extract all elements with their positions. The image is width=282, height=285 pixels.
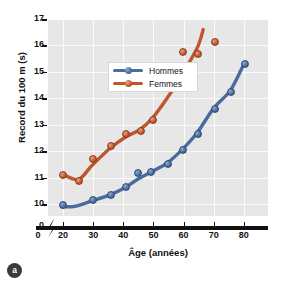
data-point-femmes [179,48,187,56]
y-tick-mark [42,151,47,153]
data-point-hommes [59,201,67,209]
legend-item-hommes: Hommes [113,64,193,77]
data-point-femmes [59,171,67,179]
x-tick-label: 40 [112,231,134,240]
data-point-hommes [122,183,130,191]
y-tick-label: 11 [22,173,44,182]
data-point-hommes [194,130,202,138]
x-tick-label: 30 [82,231,104,240]
y-tick-label: 10 [22,199,44,208]
plot-area: Hommes Femmes [48,19,268,216]
data-point-femmes [137,127,145,135]
data-point-femmes [211,38,219,46]
legend-label-hommes: Hommes [149,66,183,76]
legend-item-femmes: Femmes [113,77,193,90]
data-point-femmes [75,177,83,185]
x-tick-label: 50 [142,231,164,240]
y-tick-mark [42,19,47,21]
data-point-hommes [211,105,219,113]
x-tick-label: 80 [233,231,255,240]
series-curves [48,19,268,216]
x-axis-line [36,226,268,230]
data-point-femmes [149,116,157,124]
y-axis-title: Record du 100 m (s) [16,23,27,173]
y-tick-mark [42,178,47,180]
x-axis-title: Âge (années) [48,247,268,258]
y-tick-mark [42,204,47,206]
y-tick-mark [42,125,47,127]
axis-break-icon [45,218,61,238]
y-tick-mark [42,72,47,74]
y-tick-mark [42,98,47,100]
y-tick-mark [42,45,47,47]
figure-panel: Hommes Femmes 01011121314151617 02030405… [0,0,282,285]
x-tick-label: 70 [203,231,225,240]
x-tick-label: 60 [173,231,195,240]
data-point-hommes [241,60,249,68]
data-point-hommes [89,196,97,204]
legend-label-femmes: Femmes [149,79,182,89]
legend-swatch-femmes [113,78,143,89]
legend: Hommes Femmes [108,62,198,92]
data-point-femmes [107,142,115,150]
panel-label-badge: a [7,263,22,278]
legend-swatch-hommes [113,65,143,76]
data-point-hommes [164,160,172,168]
